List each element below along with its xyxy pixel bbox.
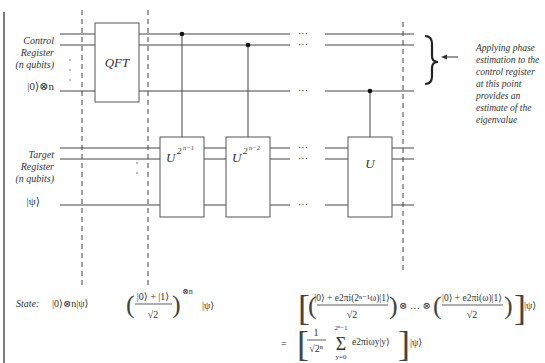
state-3-line-1: [ ( |0⟩ + e2πi(2ⁿ⁻¹ω)|1⟩ √2 ) ⊗ … ⊗ ( |0… xyxy=(298,288,536,328)
state-1: |0⟩⊗n|ψ⟩ xyxy=(52,298,89,309)
svg-text:|ψ⟩: |ψ⟩ xyxy=(27,195,40,207)
svg-text:at this point: at this point xyxy=(476,79,522,89)
svg-text:Control: Control xyxy=(23,35,54,46)
svg-text:control register: control register xyxy=(476,67,535,77)
svg-text:e2πiωy|y⟩: e2πiωy|y⟩ xyxy=(352,337,390,347)
controlled-u-gate-3: U xyxy=(348,89,392,217)
controlled-u-gate-2: U 2 n−2 xyxy=(226,43,270,217)
svg-text:|ψ⟩: |ψ⟩ xyxy=(410,337,422,348)
svg-text:): ) xyxy=(172,290,181,319)
svg-text:Applying phase: Applying phase xyxy=(475,43,535,53)
svg-text:estimation to the: estimation to the xyxy=(476,55,539,65)
svg-text:U: U xyxy=(365,156,376,171)
svg-text:2ⁿ−1: 2ⁿ−1 xyxy=(334,324,348,332)
svg-text:|0⟩ + e2πi(ω)|1⟩: |0⟩ + e2πi(ω)|1⟩ xyxy=(442,293,502,304)
svg-text:√2: √2 xyxy=(347,309,358,320)
svg-text:⊗ … ⊗: ⊗ … ⊗ xyxy=(399,300,431,311)
svg-text:y=0: y=0 xyxy=(336,353,347,361)
svg-text:Register: Register xyxy=(20,47,54,58)
state-label: State: xyxy=(16,298,39,309)
qft-gate: QFT xyxy=(95,23,139,102)
svg-text:|ψ⟩: |ψ⟩ xyxy=(524,300,536,311)
svg-text:1: 1 xyxy=(314,327,319,338)
control-register-label: Control Register (n qubits) |0⟩⊗n xyxy=(15,35,54,92)
svg-text:|0⟩⊗n: |0⟩⊗n xyxy=(27,80,54,92)
annotation-note: Applying phase estimation to the control… xyxy=(475,43,539,125)
controlled-u-gate-1: U 2 n−1 xyxy=(160,32,204,217)
control-dot xyxy=(180,32,185,37)
svg-text:···: ··· xyxy=(298,142,308,153)
svg-text:eigenvalue: eigenvalue xyxy=(476,115,517,125)
svg-text:U: U xyxy=(232,150,243,165)
svg-text:Target: Target xyxy=(29,149,55,160)
control-dot xyxy=(246,43,251,48)
phase-estimation-diagram: ··· ··· ··· ··· ··· ··· QFT U 2 n−1 U 2 … xyxy=(0,0,545,363)
svg-text:(n qubits): (n qubits) xyxy=(15,59,54,71)
state-2: ( |0⟩ + |1⟩ √2 ) ⊗n |ψ⟩ xyxy=(126,287,214,320)
svg-text:estimate of the: estimate of the xyxy=(476,103,531,113)
control-dot xyxy=(368,89,373,94)
arrow-icon xyxy=(441,55,458,60)
svg-text:|ψ⟩: |ψ⟩ xyxy=(202,300,214,311)
svg-text:···: ··· xyxy=(298,199,308,210)
curly-brace xyxy=(425,36,438,84)
svg-text:···: ··· xyxy=(298,28,308,39)
svg-text:[: [ xyxy=(297,324,309,363)
svg-text:|0⟩ + e2πi(2ⁿ⁻¹ω)|1⟩: |0⟩ + e2πi(2ⁿ⁻¹ω)|1⟩ xyxy=(314,293,389,304)
wire-ellipses: ··· ··· ··· ··· ··· ··· xyxy=(298,28,308,210)
svg-text:U: U xyxy=(166,150,177,165)
svg-text:]: ] xyxy=(398,324,410,363)
svg-text:Σ: Σ xyxy=(336,334,346,354)
svg-text:n−2: n−2 xyxy=(249,144,261,151)
svg-text:√2ⁿ: √2ⁿ xyxy=(309,343,323,354)
svg-text:QFT: QFT xyxy=(105,55,130,70)
svg-text:···: ··· xyxy=(298,153,308,164)
svg-text:): ) xyxy=(389,291,398,320)
svg-text:√2: √2 xyxy=(467,309,478,320)
svg-text:=: = xyxy=(281,338,287,349)
svg-text:(n qubits): (n qubits) xyxy=(15,173,54,185)
svg-text:provides an: provides an xyxy=(475,91,520,101)
svg-text:2: 2 xyxy=(243,146,248,156)
svg-text:···: ··· xyxy=(298,85,308,96)
svg-text:√2: √2 xyxy=(148,309,159,320)
svg-text:): ) xyxy=(504,291,513,320)
svg-text:Register: Register xyxy=(20,161,54,172)
svg-text:⊗n: ⊗n xyxy=(182,287,193,296)
svg-text:(: ( xyxy=(433,291,442,320)
svg-text:n−1: n−1 xyxy=(183,144,194,151)
svg-text:|0⟩ + |1⟩: |0⟩ + |1⟩ xyxy=(137,291,170,302)
svg-text:···: ··· xyxy=(298,39,308,50)
svg-text:(: ( xyxy=(126,290,135,319)
state-3-line-2: = [ 1 √2ⁿ 2ⁿ−1 Σ y=0 e2πiωy|y⟩ ] |ψ⟩ xyxy=(281,324,422,363)
svg-text:2: 2 xyxy=(177,146,182,156)
target-register-label: Target Register (n qubits) |ψ⟩ xyxy=(15,149,54,207)
